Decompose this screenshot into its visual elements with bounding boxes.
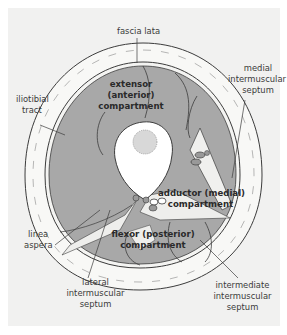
- label-iliotibial-line1: iliotibial: [16, 94, 49, 104]
- compartment-adductor-line1: adductor (medial): [158, 188, 243, 199]
- compartment-extensor-line2: (anterior): [96, 90, 166, 101]
- label-medial-septum-line3: septum: [238, 85, 278, 95]
- compartment-extensor-line3: compartment: [96, 101, 166, 112]
- label-linea-line2: aspera: [24, 240, 53, 250]
- label-linea-line1: linea: [28, 229, 48, 239]
- label-intermediate-septum-line3: septum: [210, 302, 275, 312]
- compartment-extensor-line1: extensor: [96, 79, 166, 90]
- compartment-adductor-line2: compartment: [158, 199, 243, 210]
- label-intermediate-septum-line1: intermediate: [210, 280, 275, 290]
- label-medial-septum-line1: medial: [238, 63, 278, 73]
- label-lateral-septum-line2: intermuscular: [58, 288, 133, 298]
- bone-marrow: [133, 130, 157, 154]
- label-iliotibial-line2: tract: [22, 105, 42, 115]
- label-lateral-septum-line1: lateral: [68, 277, 123, 287]
- label-intermediate-septum-line2: intermuscular: [210, 291, 275, 301]
- compartment-flexor-line2: compartment: [108, 240, 198, 251]
- label-medial-septum-line2: intermuscular: [228, 74, 278, 84]
- label-fascia-lata: fascia lata: [117, 26, 160, 36]
- compartment-flexor-line1: flexor (posterior): [108, 229, 198, 240]
- label-lateral-septum-line3: septum: [68, 299, 123, 309]
